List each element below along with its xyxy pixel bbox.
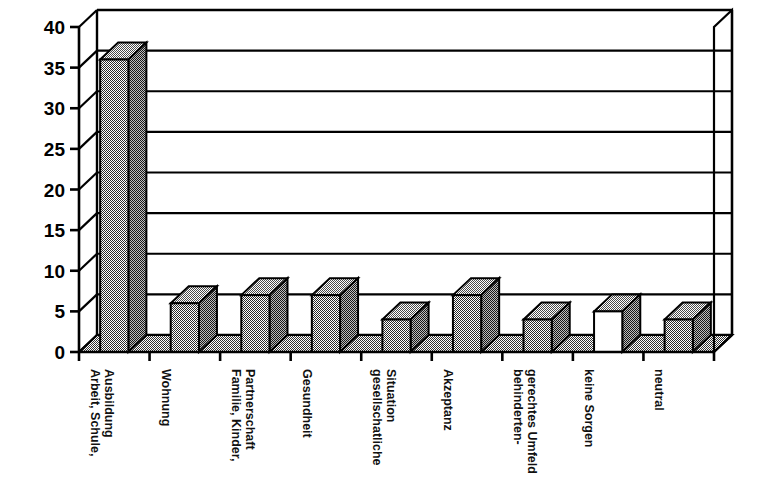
bar-front-face — [524, 320, 552, 353]
y-tick-label: 10 — [44, 261, 65, 282]
svg-text:Familie, Kinder,: Familie, Kinder, — [229, 369, 243, 461]
y-tick-label: 0 — [54, 342, 65, 363]
y-axis-tick-labels: 0510152025303540 — [44, 17, 66, 363]
category-label-1: Arbeit, Schule, — [88, 369, 102, 457]
category-label-3: Familie, Kinder, — [229, 369, 243, 461]
y-tick-label: 40 — [44, 17, 65, 38]
svg-text:Wohnung: Wohnung — [159, 369, 173, 426]
category-label-5: Situation — [384, 369, 398, 422]
svg-text:Ausbildung: Ausbildung — [102, 369, 116, 438]
svg-text:Arbeit, Schule,: Arbeit, Schule, — [88, 369, 102, 457]
category-label-6: Akzeptanz — [441, 369, 455, 431]
y-tick-label: 15 — [44, 220, 66, 241]
category-label-7: gerechtes Umfeld — [525, 369, 539, 474]
bar-front-face — [665, 320, 693, 353]
bar-1 — [100, 43, 146, 353]
category-label-3: Partnerschaft — [243, 369, 257, 450]
y-tick-label: 5 — [54, 301, 65, 322]
svg-text:Situation: Situation — [384, 369, 398, 422]
bar-front-face — [453, 295, 481, 352]
svg-text:Partnerschaft: Partnerschaft — [243, 369, 257, 450]
y-tick-label: 20 — [44, 180, 65, 201]
bar-front-face — [594, 311, 622, 352]
svg-text:keine Sorgen: keine Sorgen — [582, 369, 596, 448]
bar-front-face — [241, 295, 269, 352]
bar-6 — [453, 278, 499, 352]
svg-text:behinderten-: behinderten- — [511, 369, 525, 445]
category-label-2: Wohnung — [159, 369, 173, 426]
chart-canvas: 0510152025303540 Arbeit, Schule,Ausbildu… — [0, 0, 780, 500]
svg-text:Gesundheit: Gesundheit — [300, 369, 314, 439]
bar-3 — [241, 278, 287, 352]
category-label-8: keine Sorgen — [582, 369, 596, 448]
y-tick-label: 30 — [44, 98, 65, 119]
bar-2 — [171, 286, 217, 352]
category-label-5: gesellschatliche — [370, 369, 384, 466]
bar-4 — [312, 278, 358, 352]
svg-text:Akzeptanz: Akzeptanz — [441, 369, 455, 431]
svg-text:gerechtes Umfeld: gerechtes Umfeld — [525, 369, 539, 474]
svg-text:neutral: neutral — [652, 369, 666, 411]
category-label-7: behinderten- — [511, 369, 525, 445]
bar-front-face — [171, 303, 199, 352]
y-tick-label: 35 — [44, 58, 66, 79]
category-label-4: Gesundheit — [300, 369, 314, 439]
bar-front-face — [312, 295, 340, 352]
bar-front-face — [100, 60, 128, 353]
category-label-1: Ausbildung — [102, 369, 116, 438]
svg-text:gesellschatliche: gesellschatliche — [370, 369, 384, 466]
bar-front-face — [382, 320, 410, 353]
bar-chart: 0510152025303540 Arbeit, Schule,Ausbildu… — [0, 0, 780, 500]
category-label-9: neutral — [652, 369, 666, 411]
y-tick-label: 25 — [44, 139, 66, 160]
bar-side-face — [128, 43, 146, 353]
x-axis-category-labels: Arbeit, Schule,AusbildungWohnungFamilie,… — [88, 369, 666, 474]
